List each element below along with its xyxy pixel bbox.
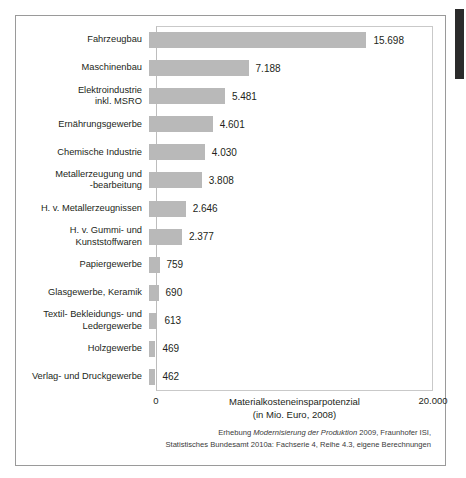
- bar-value-label: 613: [164, 315, 181, 326]
- category-label: Chemische Industrie: [16, 147, 149, 159]
- bar-row: Holzgewerbe469: [16, 336, 433, 362]
- bar-row: Chemische Industrie4.030: [16, 139, 433, 165]
- bar: [149, 369, 155, 385]
- source-note-line-2: Statistisches Bundesamt 2010a: Fachserie…: [31, 439, 431, 451]
- bar: [149, 144, 205, 160]
- bar-row: Maschinenbau7.188: [16, 55, 433, 81]
- source-note-publication-title: Modernisierung der Produktion: [253, 428, 357, 437]
- bar-track: 4.601: [149, 111, 433, 137]
- bar-value-label: 3.808: [209, 175, 234, 186]
- page-edge-marker: [455, 9, 464, 79]
- bar-track: 5.481: [149, 83, 433, 109]
- bar-value-label: 4.030: [212, 147, 237, 158]
- category-label: H. v. Metallerzeugnissen: [16, 203, 149, 215]
- category-label: Elektroindustrie inkl. MSRO: [16, 85, 149, 108]
- bar-value-label: 462: [162, 371, 179, 382]
- bar-row: Ernährungsgewerbe4.601: [16, 111, 433, 137]
- bar-value-label: 15.698: [373, 35, 404, 46]
- category-label: Ernährungsgewerbe: [16, 119, 149, 131]
- bar-value-label: 469: [162, 343, 179, 354]
- category-label: Glasgewerbe, Keramik: [16, 287, 149, 299]
- bar-track: 469: [149, 336, 433, 362]
- bar-rows-container: Fahrzeugbau15.698Maschinenbau7.188Elektr…: [16, 26, 433, 391]
- bar-track: 7.188: [149, 55, 433, 81]
- bar-value-label: 2.646: [193, 203, 218, 214]
- bar-row: Glasgewerbe, Keramik690: [16, 280, 433, 306]
- bar-row: Elektroindustrie inkl. MSRO5.481: [16, 83, 433, 109]
- bar: [149, 60, 249, 76]
- category-label: Papiergewerbe: [16, 259, 149, 271]
- bar-track: 613: [149, 308, 433, 334]
- bar-row: Fahrzeugbau15.698: [16, 27, 433, 53]
- figure-frame: Fahrzeugbau15.698Maschinenbau7.188Elektr…: [15, 15, 446, 466]
- x-axis-title-line1: Materialkosteneinsparpotenzial: [156, 395, 433, 408]
- bar-row: H. v. Gummi- und Kunststoffwaren2.377: [16, 224, 433, 250]
- bar-value-label: 759: [167, 259, 184, 270]
- category-label: Maschinenbau: [16, 62, 149, 74]
- bar-track: 759: [149, 252, 433, 278]
- category-label: Metallerzeugung und -bearbeitung: [16, 169, 149, 192]
- bar-track: 3.808: [149, 167, 433, 193]
- bar: [149, 172, 202, 188]
- bar-value-label: 5.481: [232, 91, 257, 102]
- bar: [149, 341, 155, 357]
- bar-track: 15.698: [149, 27, 433, 53]
- bar-row: Metallerzeugung und -bearbeitung3.808: [16, 167, 433, 193]
- bar-track: 4.030: [149, 139, 433, 165]
- bar-track: 2.646: [149, 196, 433, 222]
- bar-row: Papiergewerbe759: [16, 252, 433, 278]
- category-label: Holzgewerbe: [16, 343, 149, 355]
- bar: [149, 285, 159, 301]
- bar: [149, 88, 225, 104]
- x-axis: 0 20.000 Materialkosteneinsparpotenzial …: [156, 395, 433, 409]
- bar-row: Textil- Bekleidungs- und Ledergewerbe613: [16, 308, 433, 334]
- bar-value-label: 4.601: [220, 119, 245, 130]
- bar: [149, 313, 157, 329]
- source-note: Erhebung Modernisierung der Produktion 2…: [31, 427, 431, 450]
- category-label: Fahrzeugbau: [16, 34, 149, 46]
- bar-value-label: 7.188: [256, 63, 281, 74]
- bar: [149, 32, 366, 48]
- bar: [149, 201, 186, 217]
- source-note-line-1: Erhebung Modernisierung der Produktion 2…: [31, 427, 431, 439]
- bar-value-label: 690: [166, 287, 183, 298]
- category-label: H. v. Gummi- und Kunststoffwaren: [16, 225, 149, 248]
- bar-track: 2.377: [149, 224, 433, 250]
- bar-track: 462: [149, 364, 433, 390]
- bar-value-label: 2.377: [189, 231, 214, 242]
- category-label: Verlag- und Druckgewerbe: [16, 371, 149, 383]
- bar-row: H. v. Metallerzeugnissen2.646: [16, 196, 433, 222]
- bar-track: 690: [149, 280, 433, 306]
- bar-row: Verlag- und Druckgewerbe462: [16, 364, 433, 390]
- bar: [149, 257, 160, 273]
- category-label: Textil- Bekleidungs- und Ledergewerbe: [16, 309, 149, 332]
- bar: [149, 116, 213, 132]
- bar: [149, 229, 182, 245]
- x-axis-title-line2: (in Mio. Euro, 2008): [156, 408, 433, 421]
